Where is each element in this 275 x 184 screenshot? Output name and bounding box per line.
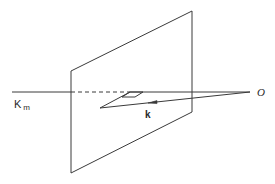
ray-plane-diagram: Km O k [0, 0, 275, 184]
axis-label-subscript: m [23, 103, 30, 112]
axis-label: Km [14, 98, 30, 112]
vector-k-arrowhead-icon [148, 101, 157, 104]
vector-k-line [100, 92, 250, 108]
vector-label: k [145, 109, 151, 120]
origin-label: O [257, 86, 265, 98]
